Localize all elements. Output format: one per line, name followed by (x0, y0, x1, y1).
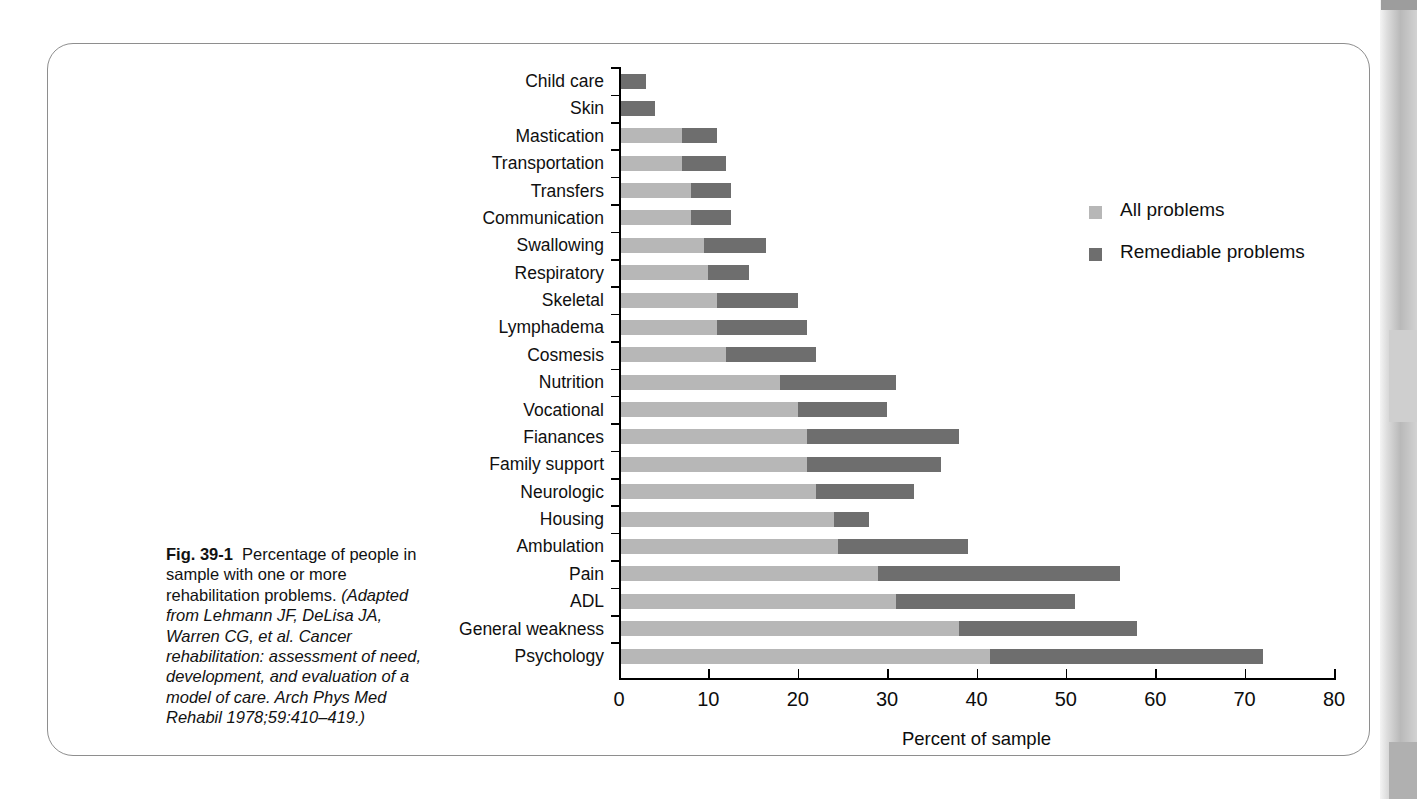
category-label: Respiratory (274, 262, 604, 283)
figure-number: Fig. 39-1 (166, 545, 233, 563)
category-label: Skeletal (274, 290, 604, 311)
x-axis-tick (708, 669, 710, 678)
bar-segment-all-problems (619, 128, 682, 143)
bar-segment-all-problems (619, 156, 682, 171)
x-axis-tick-label: 40 (965, 688, 987, 711)
category-label: Vocational (274, 399, 604, 420)
page-scan-artifact-top (1381, 0, 1417, 10)
bar-segment-remediable-problems (691, 210, 731, 225)
bar-segment-all-problems (619, 265, 708, 280)
x-axis-tick (1245, 669, 1247, 678)
y-axis-tick (611, 95, 619, 97)
category-label: Cosmesis (274, 344, 604, 365)
x-axis-tick-label: 0 (613, 688, 624, 711)
bar-segment-remediable-problems (726, 347, 815, 362)
bar-segment-all-problems (619, 594, 896, 609)
x-axis-tick-label: 60 (1144, 688, 1166, 711)
x-axis-tick-label: 20 (787, 688, 809, 711)
bar-segment-remediable-problems (780, 375, 896, 390)
bar-segment-remediable-problems (959, 621, 1138, 636)
bar-segment-all-problems (619, 293, 717, 308)
x-axis-tick (887, 669, 889, 678)
y-axis-tick (611, 505, 619, 507)
page-scan-artifact-bottom (1389, 742, 1417, 799)
y-axis-tick (611, 314, 619, 316)
category-label: Housing (274, 509, 604, 530)
bar-segment-remediable-problems (798, 402, 887, 417)
bar-segment-remediable-problems (816, 484, 914, 499)
bar-segment-remediable-problems (691, 183, 731, 198)
category-label: Family support (274, 454, 604, 475)
bar-segment-all-problems (619, 539, 838, 554)
y-axis-tick (611, 286, 619, 288)
y-axis-tick (611, 560, 619, 562)
x-axis-tick (1155, 669, 1157, 678)
bar-segment-all-problems (619, 238, 704, 253)
bar-segment-remediable-problems (878, 566, 1119, 581)
bar-segment-remediable-problems (717, 320, 806, 335)
bar-segment-all-problems (619, 210, 691, 225)
legend-label: All problems (1120, 199, 1225, 221)
bar-segment-remediable-problems (896, 594, 1075, 609)
x-axis-tick-label: 10 (697, 688, 719, 711)
x-axis-tick-label: 50 (1055, 688, 1077, 711)
bar-segment-remediable-problems (708, 265, 748, 280)
legend-swatch-remediable-problems (1089, 248, 1102, 261)
category-label: Nutrition (274, 372, 604, 393)
x-axis-line (619, 678, 1336, 680)
x-axis-tick-label: 70 (1234, 688, 1256, 711)
category-label: Fianances (274, 426, 604, 447)
bar-segment-all-problems (619, 512, 834, 527)
bar-segment-remediable-problems (704, 238, 767, 253)
category-label: Neurologic (274, 481, 604, 502)
x-axis-tick (798, 669, 800, 678)
bar-segment-all-problems (619, 457, 807, 472)
bar-segment-all-problems (619, 402, 798, 417)
x-axis-tick (1066, 669, 1068, 678)
bar-segment-remediable-problems (619, 74, 646, 89)
bar-segment-all-problems (619, 347, 726, 362)
y-axis-tick (611, 369, 619, 371)
category-label: Mastication (274, 125, 604, 146)
x-axis-tick (1334, 669, 1336, 678)
y-axis-tick (611, 204, 619, 206)
category-label: Transfers (274, 180, 604, 201)
category-label: Swallowing (274, 235, 604, 256)
x-axis-tick (619, 669, 621, 678)
y-axis-tick (611, 423, 619, 425)
category-label: Communication (274, 207, 604, 228)
y-axis-tick (611, 232, 619, 234)
bar-segment-all-problems (619, 429, 807, 444)
y-axis-tick (611, 615, 619, 617)
bar-segment-remediable-problems (990, 649, 1263, 664)
bar-segment-remediable-problems (807, 457, 941, 472)
category-label: Skin (274, 98, 604, 119)
x-axis-tick-label: 80 (1323, 688, 1345, 711)
y-axis-tick (611, 478, 619, 480)
bar-segment-remediable-problems (682, 156, 727, 171)
legend-label: Remediable problems (1120, 241, 1305, 263)
bar-segment-all-problems (619, 566, 878, 581)
bar-segment-all-problems (619, 649, 990, 664)
x-axis-title: Percent of sample (902, 728, 1051, 750)
x-axis-tick-label: 30 (876, 688, 898, 711)
category-label: Transportation (274, 153, 604, 174)
y-axis-tick (611, 642, 619, 644)
y-axis-tick (611, 451, 619, 453)
y-axis-tick (611, 259, 619, 261)
bar-segment-remediable-problems (834, 512, 870, 527)
bar-segment-all-problems (619, 484, 816, 499)
bar-segment-remediable-problems (807, 429, 959, 444)
bar-segment-all-problems (619, 320, 717, 335)
y-axis-tick (611, 122, 619, 124)
y-axis-tick (611, 533, 619, 535)
bar-segment-all-problems (619, 183, 691, 198)
page-scan-artifact-middle (1389, 330, 1417, 422)
figure-panel: Child careSkinMasticationTransportationT… (47, 43, 1370, 756)
bar-segment-remediable-problems (682, 128, 718, 143)
y-axis-line (619, 67, 621, 669)
figure-caption-source: (Adapted from Lehmann JF, DeLisa JA, War… (166, 586, 421, 726)
y-axis-tick (611, 588, 619, 590)
bar-segment-remediable-problems (838, 539, 968, 554)
y-axis-tick (611, 149, 619, 151)
